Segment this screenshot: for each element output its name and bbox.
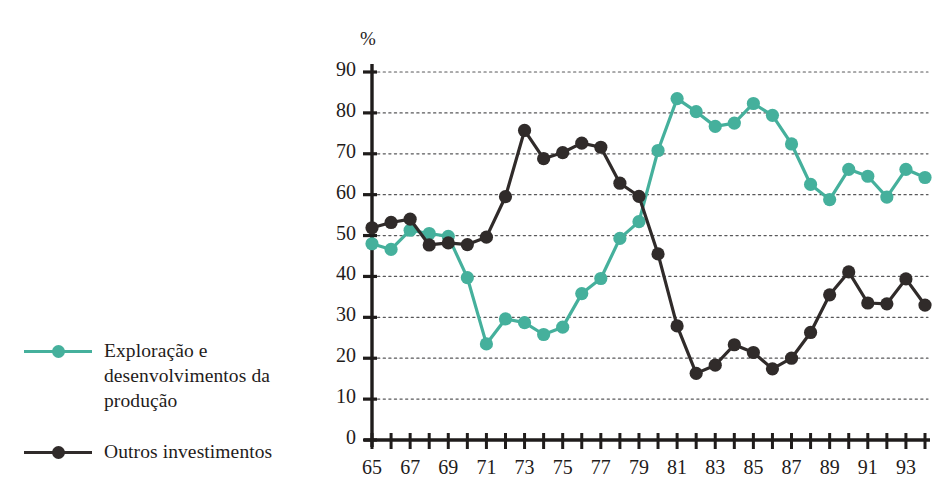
data-point xyxy=(594,272,607,285)
data-point xyxy=(461,238,474,251)
x-axis-tick-label: 89 xyxy=(810,456,850,479)
data-point xyxy=(671,92,684,105)
y-axis-tick-label: 60 xyxy=(316,181,356,204)
data-point xyxy=(632,190,645,203)
chart-page: Exploração e desenvolvimentos da produçã… xyxy=(0,0,933,502)
data-point xyxy=(480,337,493,350)
x-axis-tick-label: 79 xyxy=(619,456,659,479)
data-point xyxy=(537,328,550,341)
data-point xyxy=(766,109,779,122)
data-point xyxy=(728,117,741,130)
data-point xyxy=(537,152,550,165)
data-point xyxy=(918,171,931,184)
data-point xyxy=(556,321,569,334)
x-axis-tick-label: 77 xyxy=(581,456,621,479)
x-axis-tick-label: 67 xyxy=(390,456,430,479)
chart-canvas xyxy=(0,0,933,502)
x-axis-tick-label: 69 xyxy=(428,456,468,479)
data-point xyxy=(804,178,817,191)
data-point xyxy=(899,163,912,176)
data-point xyxy=(880,297,893,310)
y-axis-tick-label: 20 xyxy=(316,344,356,367)
data-point xyxy=(804,326,817,339)
data-point xyxy=(384,216,397,229)
data-point xyxy=(785,137,798,150)
data-point xyxy=(613,232,626,245)
data-point xyxy=(365,221,378,234)
data-point xyxy=(899,272,912,285)
data-point xyxy=(747,97,760,110)
y-axis-tick-label: 0 xyxy=(316,426,356,449)
data-point xyxy=(842,163,855,176)
data-point xyxy=(690,367,703,380)
x-axis-tick-label: 65 xyxy=(352,456,392,479)
data-point xyxy=(423,238,436,251)
x-axis-tick-label: 83 xyxy=(695,456,735,479)
data-point xyxy=(861,170,874,183)
data-point xyxy=(709,120,722,133)
data-point xyxy=(671,319,684,332)
data-point xyxy=(861,296,874,309)
x-axis-tick-label: 75 xyxy=(543,456,583,479)
data-point xyxy=(766,362,779,375)
y-axis-tick-label: 90 xyxy=(316,58,356,81)
data-point xyxy=(575,287,588,300)
data-point xyxy=(575,137,588,150)
data-point xyxy=(442,236,455,249)
data-point xyxy=(747,346,760,359)
data-point xyxy=(499,312,512,325)
x-axis-tick-label: 81 xyxy=(657,456,697,479)
y-axis-tick-label: 30 xyxy=(316,303,356,326)
data-point xyxy=(556,146,569,159)
y-axis-tick-label: 70 xyxy=(316,140,356,163)
data-point xyxy=(728,338,741,351)
data-point xyxy=(651,247,664,260)
data-point xyxy=(384,243,397,256)
y-axis-tick-label: 10 xyxy=(316,385,356,408)
x-axis-tick-label: 87 xyxy=(772,456,812,479)
data-point xyxy=(918,298,931,311)
data-point xyxy=(594,141,607,154)
data-point xyxy=(651,144,664,157)
data-point xyxy=(480,231,493,244)
data-point xyxy=(518,124,531,137)
data-point xyxy=(518,316,531,329)
y-axis-tick-label: 50 xyxy=(316,222,356,245)
data-point xyxy=(690,105,703,118)
data-point xyxy=(499,190,512,203)
y-axis-tick-label: 80 xyxy=(316,99,356,122)
x-axis-tick-label: 93 xyxy=(886,456,926,479)
y-axis-tick-label: 40 xyxy=(316,262,356,285)
data-point xyxy=(365,237,378,250)
line-chart: % 0102030405060708090 656769717375777981… xyxy=(0,0,933,502)
x-axis-tick-label: 71 xyxy=(466,456,506,479)
data-point xyxy=(842,265,855,278)
data-point xyxy=(709,359,722,372)
x-axis-tick-label: 85 xyxy=(733,456,773,479)
x-axis-tick-label: 91 xyxy=(848,456,888,479)
data-point xyxy=(785,352,798,365)
data-point xyxy=(880,191,893,204)
data-point xyxy=(613,177,626,190)
data-point xyxy=(823,193,836,206)
data-point xyxy=(823,288,836,301)
data-point xyxy=(404,213,417,226)
x-axis-tick-label: 73 xyxy=(505,456,545,479)
data-point xyxy=(461,271,474,284)
data-point xyxy=(632,215,645,228)
